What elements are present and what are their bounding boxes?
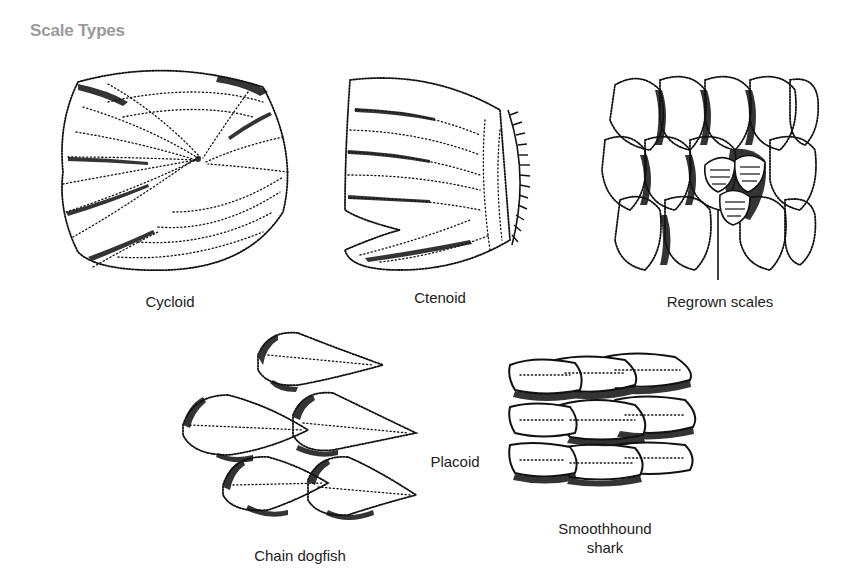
- smoothhound-label-line1: Smoothhound: [545, 519, 665, 538]
- cycloid-scale-illustration: [48, 62, 303, 277]
- smoothhound-shark-scales-illustration: [505, 345, 705, 490]
- regrown-scales-illustration: [600, 70, 825, 280]
- figure-title: Scale Types: [30, 21, 125, 41]
- chain-dogfish-label: Chain dogfish: [240, 546, 360, 565]
- smoothhound-shark-label: Smoothhound shark: [545, 519, 665, 557]
- chain-dogfish-scales-illustration: [178, 325, 423, 535]
- regrown-scales-label: Regrown scales: [660, 292, 780, 311]
- smoothhound-label-line2: shark: [545, 538, 665, 557]
- cycloid-label: Cycloid: [130, 292, 210, 311]
- ctenoid-label: Ctenoid: [400, 288, 480, 307]
- ctenoid-scale-illustration: [340, 70, 545, 275]
- placoid-label: Placoid: [420, 452, 490, 471]
